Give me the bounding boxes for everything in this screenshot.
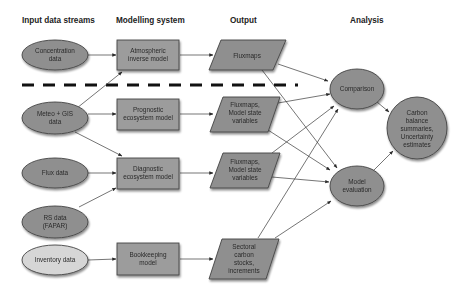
header-modelling-system: Modelling system — [116, 16, 185, 25]
label-meteo-gis: Meteo + GIS — [37, 110, 73, 117]
label-comparison: Comparison — [340, 85, 375, 93]
label-concentration: Concentration — [35, 47, 75, 54]
edge-fluxmaps3-comparison — [272, 106, 334, 153]
label-model-evaluation-a: Model — [348, 178, 365, 185]
label-fluxmaps-2c: variables — [232, 117, 258, 124]
analysis-model-evaluation: Model evaluation — [330, 166, 384, 206]
label-carbon-d: Uncertainty — [401, 133, 434, 141]
edge-fluxmaps2-comparison — [278, 94, 330, 103]
label-carbon-e: estimates — [403, 141, 430, 148]
input-concentration-data: Concentration data — [22, 40, 88, 70]
model-bookkeeping: Bookkeeping model — [117, 243, 179, 275]
label-rs-data: RS data — [43, 214, 67, 221]
label-fluxmaps: Fluxmaps — [233, 52, 261, 60]
label-bookkeeping: Bookkeeping — [130, 251, 167, 259]
edge-inventory-bookkeeping — [88, 259, 116, 260]
output-fluxmaps-state-2: Fluxmaps, Model state variables — [210, 153, 280, 188]
edge-meteo-atmospheric — [77, 72, 122, 108]
label-sectoral-a: Sectoral — [232, 243, 255, 250]
model-prognostic-ecosystem: Prognostic ecosystem model — [117, 99, 179, 130]
label-prognostic-2: ecosystem model — [123, 114, 173, 122]
edge-meteo-diagnostic — [75, 132, 122, 156]
edge-fluxmaps2-evaluation — [268, 130, 330, 170]
header-analysis: Analysis — [350, 16, 384, 25]
edge-rs-diagnostic — [79, 188, 116, 207]
model-diagnostic-ecosystem: Diagnostic ecosystem model — [117, 158, 179, 189]
label-sectoral-c: stocks, — [234, 259, 254, 266]
label-carbon-a: Carbon — [407, 109, 428, 116]
label-model-evaluation-b: evaluation — [342, 186, 372, 193]
edge-comparison-carbon — [377, 102, 389, 112]
label-atmospheric-2: inverse model — [128, 55, 168, 62]
label-diagnostic: Diagnostic — [133, 165, 164, 173]
analysis-comparison: Comparison — [330, 69, 384, 109]
edge-fluxmaps3-evaluation — [272, 177, 329, 182]
output-sectoral-carbon: Sectoral carbon stocks, increments — [209, 239, 279, 279]
label-atmospheric: Atmospheric — [130, 47, 166, 55]
header-input-data-streams: Input data streams — [22, 16, 95, 25]
input-meteo-gis-data: Meteo + GIS data — [22, 102, 88, 134]
label-prognostic: Prognostic — [133, 106, 164, 114]
label-flux-data: Flux data — [42, 169, 69, 176]
label-rs-data-2: (FAPAR) — [43, 222, 68, 230]
model-atmospheric-inverse: Atmospheric inverse model — [117, 40, 179, 70]
label-fluxmaps-3b: Model state — [228, 166, 261, 173]
edge-sectoral-evaluation — [275, 201, 331, 238]
label-sectoral-d: increments — [228, 267, 259, 274]
output-fluxmaps-state-1: Fluxmaps, Model state variables — [210, 97, 280, 132]
label-fluxmaps-2b: Model state — [228, 109, 261, 116]
edge-evaluation-carbon — [373, 151, 393, 171]
label-inventory-data: Inventory data — [35, 256, 76, 264]
label-fluxmaps-3c: variables — [232, 174, 258, 181]
label-bookkeeping-2: model — [139, 259, 156, 266]
label-meteo-gis-2: data — [49, 118, 62, 125]
input-flux-data: Flux data — [22, 158, 88, 188]
label-diagnostic-2: ecosystem model — [123, 173, 173, 181]
carbon-modelling-flow-diagram: Input data streams Modelling system Outp… — [0, 0, 470, 297]
label-fluxmaps-2a: Fluxmaps, — [230, 101, 260, 109]
label-carbon-b: balance — [406, 117, 429, 124]
header-output: Output — [230, 16, 257, 25]
label-carbon-c: summaries, — [400, 125, 433, 132]
label-sectoral-b: carbon — [234, 251, 254, 258]
label-concentration-2: data — [49, 55, 62, 62]
label-fluxmaps-3a: Fluxmaps, — [230, 158, 260, 166]
analysis-carbon-balance: Carbon balance summaries, Uncertainty es… — [387, 97, 447, 159]
output-fluxmaps: Fluxmaps — [209, 40, 286, 70]
edge-fluxmaps1-comparison — [278, 64, 328, 81]
input-inventory-data: Inventory data — [22, 245, 88, 275]
input-rs-data: RS data (FAPAR) — [22, 206, 88, 238]
